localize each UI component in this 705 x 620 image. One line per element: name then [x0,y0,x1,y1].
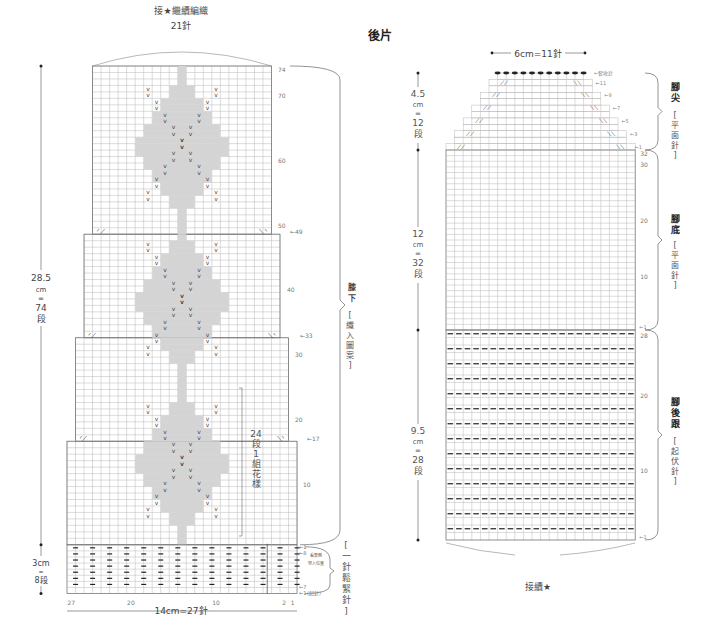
brace-knee [290,66,345,545]
toe-section-stitch: ] [673,151,676,160]
slip-stitch-mark: v [155,499,159,506]
ribbing-marker: ←8 [299,550,306,556]
row-number: 20 [295,416,303,423]
motif-row [161,254,204,260]
slip-stitch-mark: v [163,162,167,169]
slip-stitch-mark: v [214,246,218,253]
heel-section-name: 腳 [671,396,680,407]
motif-row [169,519,195,525]
stitch-tick: 27 [67,599,75,606]
slip-stitch-mark: v [146,246,150,253]
diamond-motif: vvvvvvvvvvvvvvvvvvvvvvvvvvvvvvvvvvvv [135,221,229,383]
decrease-symbol-left: ᐟ⟋ [88,332,96,340]
bind-off-mark [546,72,552,75]
slip-stitch-mark: v [197,479,201,486]
toe-section-stitch: 平 [671,121,679,130]
slip-stitch-mark: v [172,130,176,137]
row-number: 60 [278,157,286,164]
heel-section-stitch: 伏 [671,456,679,466]
slip-stitch-mark: v [146,195,150,202]
toe-decrease-left: ⟋⟋ [466,130,475,137]
slip-stitch-mark: v [206,259,210,266]
bind-off-mark [495,72,501,75]
motif-row [178,72,187,78]
toe-height-label: = [415,110,421,118]
motif-row [152,331,212,337]
bind-off-mark [529,72,535,75]
slip-stitch-mark: v [163,324,167,331]
motif-row [178,383,187,389]
slip-stitch-mark: v [189,447,193,454]
slip-stitch-mark: v [206,421,210,428]
sole-row-marker: ←1 [639,324,646,330]
decrease-symbol-right: ⟍ᐠ [268,332,276,340]
slip-stitch-mark: v [197,434,201,441]
slip-stitch-mark: v [206,175,210,182]
slip-stitch-mark: v [214,512,218,519]
repeat-label-char: 24 [250,429,262,439]
left-chart-grid: vvvvvvvvvvvvvvvvvvvvvvvvvvvvvvvvvvvvvvvv… [67,66,300,594]
toe-height-label: 段 [414,128,423,139]
motif-row [178,66,187,72]
bind-off-mark [503,72,509,75]
slip-stitch-mark: v [180,143,184,150]
motif-row [169,409,195,415]
toe-decrease-right: ⟍⟍ [616,143,625,150]
toe-top-width: 6cm=11針 [514,48,561,59]
sole-section-stitch: 針 [671,270,679,280]
slip-stitch-mark: v [163,434,167,441]
slip-stitch-mark: v [146,91,150,98]
slip-stitch-mark: v [197,324,201,331]
slip-stitch-mark: v [146,408,150,415]
motif-row [161,182,204,188]
left-height-unit: cm [36,286,47,294]
dimension-dot [40,592,43,595]
slip-stitch-mark: v [172,149,176,156]
motif-row [169,195,195,201]
motif-row [178,532,187,538]
heel-section-stitch: 針 [671,466,679,476]
toe-row-marker: ←9 [604,92,611,98]
slip-stitch-mark: v [189,466,193,473]
toe-height-label: 12 [412,118,423,128]
bind-off-mark [572,72,578,75]
slip-stitch-mark: v [180,298,184,305]
slip-stitch-mark: v [189,149,193,156]
sole-section-stitch: 平 [671,251,679,260]
heel-row-number: 28 [640,332,648,339]
row-number: 74 [278,66,286,73]
bind-off-mark [538,72,544,75]
toe-section-stitch: 面 [671,131,679,140]
section-ribbing-stitch: [一針鬆緊針] [342,540,351,616]
left-height-eq: = [38,295,44,303]
motif-row [152,493,212,499]
motif-row [144,441,221,447]
motif-row [161,506,204,512]
cast-on-note: (起針) [307,590,321,597]
slip-stitch-mark: v [189,311,193,318]
motif-row [152,176,212,182]
repeat-label-char: 1 [253,449,259,459]
dimension-dot [40,65,43,68]
left-top-label: 接★繼續編織 [154,5,207,16]
motif-row [169,92,195,98]
ribbing-stitch-char: 緊 [342,584,351,594]
slip-stitch-mark: v [189,473,193,480]
toe-row-marker: ←11 [596,80,607,86]
dimension-dot [417,329,420,332]
toe-row-marker: ←3 [630,131,637,137]
dimension-dot [584,52,587,55]
heel-height-label: 28 [412,455,424,465]
motif-row [161,189,204,195]
ribbing-stitch-char: 針 [342,561,351,572]
slip-stitch-mark: v [155,175,159,182]
row-number: 40 [287,286,295,293]
heel-section-stitch: ] [673,477,676,486]
row-number: 50 [278,222,286,229]
slip-stitch-mark: v [214,505,218,512]
motif-row [169,512,195,518]
slip-stitch-mark: v [197,169,201,176]
toe-decrease-right: ⟍⟍ [599,117,608,124]
motif-row [161,499,204,505]
sole-section-stitch: ] [673,281,676,290]
